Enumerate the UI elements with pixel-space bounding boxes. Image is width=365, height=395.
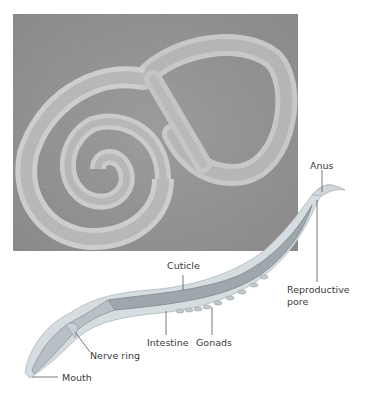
nerve-ring-leader bbox=[75, 332, 90, 352]
label-mouth: Mouth bbox=[62, 372, 92, 383]
cuticle-outline bbox=[25, 185, 332, 378]
label-reproductive-pore-line1: Reproductive bbox=[287, 284, 350, 295]
label-anus: Anus bbox=[310, 160, 334, 171]
nematode-anatomy-diagram bbox=[0, 0, 365, 395]
tail-tip bbox=[312, 185, 345, 196]
label-reproductive-pore-line2: pore bbox=[287, 296, 308, 307]
label-gonads: Gonads bbox=[196, 337, 232, 348]
label-cuticle: Cuticle bbox=[167, 260, 200, 271]
label-intestine: Intestine bbox=[147, 337, 189, 348]
label-nerve-ring: Nerve ring bbox=[90, 350, 140, 361]
